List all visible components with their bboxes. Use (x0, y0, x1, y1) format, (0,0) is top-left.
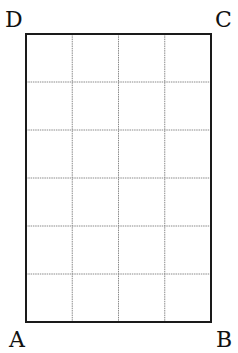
rectangle-diagram: D C A B (0, 0, 238, 353)
vertex-label-d: D (5, 7, 23, 32)
vertex-label-b: B (216, 327, 232, 352)
vertex-label-c: C (215, 7, 232, 32)
grid-lines (26, 34, 211, 322)
vertex-label-a: A (8, 327, 26, 352)
